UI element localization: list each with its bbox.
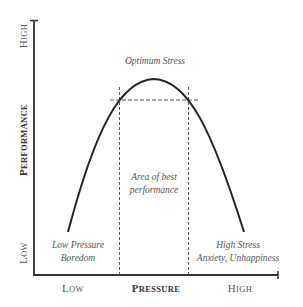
diagram-canvas: HIGH PERFORMANCE LOW LOW PRESSURE HIGH O… — [0, 0, 303, 307]
x-low-label: LOW — [62, 282, 84, 294]
y-axis-title: PERFORMANCE — [17, 104, 29, 176]
y-low-label: LOW — [17, 242, 29, 264]
area-label-line2: performance — [129, 185, 179, 195]
anxiety-label: Anxiety, Unhappiness — [196, 253, 280, 263]
low-pressure-label: Low Pressure — [51, 240, 104, 250]
area-label-line1: Area of best — [130, 172, 177, 182]
high-stress-label: High Stress — [215, 240, 260, 250]
performance-curve — [68, 79, 244, 232]
optimum-stress-label: Optimum Stress — [125, 56, 185, 66]
y-high-label: HIGH — [17, 24, 29, 48]
x-high-label: HIGH — [228, 282, 252, 294]
yerkes-dodson-diagram: HIGH PERFORMANCE LOW LOW PRESSURE HIGH O… — [0, 0, 303, 307]
x-axis-title: PRESSURE — [132, 282, 180, 294]
boredom-label: Boredom — [61, 253, 96, 263]
